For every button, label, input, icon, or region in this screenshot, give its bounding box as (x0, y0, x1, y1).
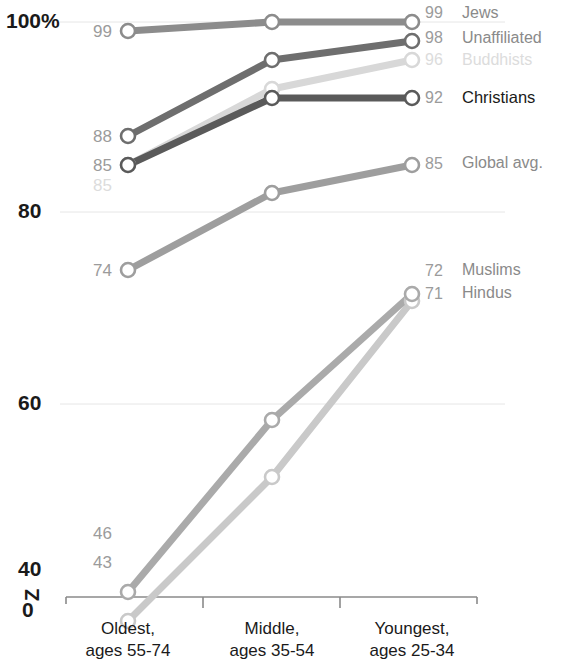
series-markers-christians (121, 91, 419, 172)
legend-label-muslims: Muslims (462, 261, 521, 279)
x-axis-label-youngest-line2: ages 25-34 (352, 640, 472, 662)
end-value-global-avg: 85 (425, 155, 443, 173)
start-value-unaffiliated: 88 (62, 127, 112, 147)
end-value-unaffiliated: 98 (425, 29, 443, 47)
series-line-global-avg (128, 165, 412, 270)
end-value-jews: 99 (425, 4, 443, 22)
series-line-christians (128, 98, 412, 165)
x-axis-label-middle: Middle, ages 35-54 (212, 618, 332, 662)
start-value-muslims: 46 (62, 524, 112, 544)
end-value-hindus: 71 (425, 285, 443, 303)
legend-label-buddhists: Buddhists (462, 51, 532, 69)
start-value-buddhists: 85 (62, 176, 112, 196)
x-axis-label-youngest: Youngest, ages 25-34 (352, 618, 472, 662)
x-axis-label-youngest-line1: Youngest, (352, 618, 472, 640)
start-value-jews: 99 (62, 22, 112, 42)
end-value-buddhists: 96 (425, 51, 443, 69)
series-line-hindus (128, 301, 412, 621)
legend-label-hindus: Hindus (462, 284, 512, 302)
x-axis-label-oldest: Oldest, ages 55-74 (68, 618, 188, 662)
end-value-muslims: 72 (425, 262, 443, 280)
x-axis-label-middle-line2: ages 35-54 (212, 640, 332, 662)
legend-label-jews: Jews (462, 4, 498, 22)
start-value-global-avg: 74 (62, 261, 112, 281)
legend-label-christians: Christians (462, 88, 535, 107)
start-value-hindus: 43 (62, 553, 112, 573)
start-value-christians: 85 (62, 156, 112, 176)
end-value-christians: 92 (425, 89, 443, 107)
series-line-muslims (128, 294, 412, 592)
legend-label-unaffiliated: Unaffiliated (462, 29, 542, 47)
legend-label-global-avg: Global avg. (462, 154, 543, 172)
x-axis-label-oldest-line1: Oldest, (68, 618, 188, 640)
x-axis-label-oldest-line2: ages 55-74 (68, 640, 188, 662)
x-axis-label-middle-line1: Middle, (212, 618, 332, 640)
line-chart: 100% 80 60 40 Z 0 (0, 0, 567, 670)
